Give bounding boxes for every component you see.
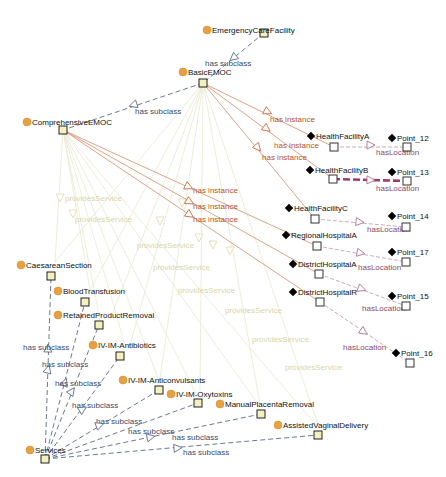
provides-service-label: providesService [285,363,342,372]
provides-service-label: providesService [137,241,194,250]
instance-diamond-icon [388,292,396,300]
node-label: HealthFacilityC [294,204,348,213]
class-circle-icon [167,390,175,398]
node-label: Point_14 [397,212,429,221]
location-arrow-icon [367,141,375,149]
node-handle-box[interactable] [199,79,207,87]
subclass-label: has subclass [42,360,88,369]
provides-service-label: providesService [65,194,122,203]
node-label: ManualPlacentaRemoval [225,400,314,409]
node-handle-box[interactable] [311,215,319,223]
node-handle-box[interactable] [316,298,324,306]
node-basicemoc[interactable]: BasicEMOC [179,68,232,87]
node-label: BloodTransfusion [63,287,125,296]
node-handle-box[interactable] [402,258,410,266]
node-handle-box[interactable] [81,298,89,306]
node-label: RetainedProductRemoval [63,311,154,320]
node-point-16[interactable]: Point_16 [392,349,433,367]
node-point-13[interactable]: Point_13 [388,168,429,185]
class-circle-icon [274,421,282,429]
node-emergencycarefacility[interactable]: EmergencyCareFacility [203,26,295,37]
node-label: Point_17 [397,248,429,257]
location-label: hasLocation [343,343,386,352]
node-label: DistrictHospitalA [298,260,357,269]
class-circle-icon [179,68,187,76]
node-handle-box[interactable] [95,321,103,329]
instance-edge[interactable] [203,83,315,219]
node-districthospitalb[interactable]: DistrictHospitalR [289,288,358,306]
node-handle-box[interactable] [257,410,265,418]
instance-diamond-icon [306,166,314,174]
node-label: Point_15 [397,292,429,301]
node-handle-box[interactable] [402,223,410,231]
provides-service-label: providesService [178,286,235,295]
node-handle-box[interactable] [194,399,202,407]
node-caesareansection[interactable]: CaesareanSection [17,261,92,280]
instance-diamond-icon [388,134,396,142]
class-circle-icon [23,118,31,126]
node-handle-box[interactable] [330,143,338,151]
node-handle-box[interactable] [314,431,322,439]
subclass-label: has subclass [128,427,174,436]
node-handle-box[interactable] [329,175,337,183]
node-handle-box[interactable] [47,272,55,280]
subclass-arrow-icon [66,388,74,397]
subclass-arrow-icon [174,444,182,452]
service-arrow-icon [56,194,64,202]
node-regionalhospitala[interactable]: RegionalHospitalA [282,231,358,250]
provides-service-label: providesService [153,263,210,272]
instance-arrow-icon [184,209,193,217]
class-circle-icon [26,446,34,454]
node-handle-box[interactable] [313,242,321,250]
node-services[interactable]: Services [26,446,66,463]
class-circle-icon [119,376,127,384]
node-retainedproductremoval[interactable]: RetainedProductRemoval [54,311,154,329]
node-label: AssistedVaginalDelivery [283,421,368,430]
subclass-label: has subclass [55,379,101,388]
node-handle-box[interactable] [155,386,163,394]
node-handle-box[interactable] [403,143,411,151]
node-label: DistrictHospitalR [298,288,357,297]
node-manualplacentaremoval[interactable]: ManualPlacentaRemoval [216,400,314,418]
instance-diamond-icon [388,168,396,176]
instance-label: has instance [262,153,307,162]
node-label: Point_16 [401,349,433,358]
node-handle-box[interactable] [116,352,124,360]
node-handle-box[interactable] [403,177,411,185]
node-comprehensiveemoc[interactable]: ComprehensiveEMOC [23,118,112,134]
node-handle-box[interactable] [315,270,323,278]
node-label: EmergencyCareFacility [212,26,295,35]
subclass-label: has subclass [172,433,218,442]
node-label: HealthFacilityA [316,132,370,141]
node-handle-box[interactable] [41,455,49,463]
instance-diamond-icon [388,248,396,256]
node-districthospitala[interactable]: DistrictHospitalA [289,260,358,278]
subclass-label: has subclass [183,448,229,457]
instance-diamond-icon [282,231,290,239]
instance-label: has instance [193,202,238,211]
instance-diamond-icon [307,132,315,140]
node-healthfacilityc[interactable]: HealthFacilityC [285,204,348,223]
node-handle-box[interactable] [59,126,67,134]
provides-service-label: providesService [225,306,282,315]
instance-arrow-icon [263,107,272,114]
location-label: hasLocation [362,304,405,313]
ontology-graph[interactable]: providesServiceprovidesServiceprovidesSe… [0,0,446,477]
instance-label: has instance [193,186,238,195]
node-handle-box[interactable] [406,359,414,367]
location-arrow-icon [358,326,367,334]
node-assistedvaginaldelivery[interactable]: AssistedVaginalDelivery [274,421,368,439]
location-arrow-icon [367,176,375,184]
provides-service-line [203,83,318,425]
node-bloodtransfusion[interactable]: BloodTransfusion [54,287,125,306]
instance-label: has instance [193,215,238,224]
instance-arrow-icon [261,123,270,131]
node-label: Point_12 [397,134,429,143]
class-circle-icon [89,341,97,349]
node-iv-im-antibiotics[interactable]: IV-IM-Antibiotics [89,341,156,360]
class-circle-icon [203,26,211,34]
location-label: hasLocation [358,263,401,272]
instance-diamond-icon [392,349,400,357]
instance-label: has instance [270,115,315,124]
node-handle-box[interactable] [402,302,410,310]
